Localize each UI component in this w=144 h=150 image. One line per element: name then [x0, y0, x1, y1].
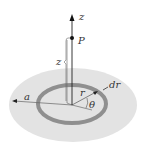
radius-a-label: a	[24, 91, 30, 102]
height-label: z	[55, 56, 62, 67]
disk-field-diagram: z P z a r θ dr	[0, 0, 144, 150]
diagram-canvas: z P z a r θ dr	[0, 0, 144, 150]
point-p	[70, 36, 74, 40]
angle-label: θ	[89, 99, 95, 110]
z-axis-label: z	[78, 11, 85, 22]
point-p-label: P	[77, 35, 85, 46]
ring-width-label: dr	[109, 79, 121, 90]
z-axis-arrowhead	[70, 14, 75, 21]
